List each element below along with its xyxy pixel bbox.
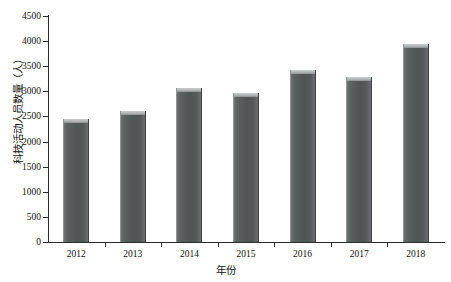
x-axis-tick-label: 2017 [350,249,369,259]
bar-top-highlight [347,77,371,81]
y-axis-tick-label: 500 [27,212,41,222]
y-axis-tick [43,142,48,143]
x-axis-tick-label: 2016 [293,249,312,259]
bar-top-highlight [291,70,315,74]
y-axis-tick-label: 1000 [22,187,41,197]
y-axis-tick [43,41,48,42]
x-axis-tick [387,242,388,247]
x-axis-title: 年份 [0,262,451,277]
bar-top-highlight [177,88,201,92]
x-axis-tick-label: 2018 [406,249,425,259]
y-axis-tick-label: 2500 [22,111,41,121]
x-axis-tick-label: 2014 [180,249,199,259]
y-axis-tick-label: 4500 [22,11,41,21]
bar-top-highlight [121,111,145,115]
bar [176,88,202,242]
y-axis-tick [43,91,48,92]
x-axis-tick-label: 2015 [237,249,256,259]
x-axis-tick-label: 2012 [67,249,86,259]
plot-area: 0500100015002000250030003500400045002012… [48,16,444,242]
bar-top-highlight [64,119,88,123]
y-axis-tick-label: 3500 [22,61,41,71]
y-axis-tick-label: 2000 [22,137,41,147]
x-axis-tick [331,242,332,247]
x-axis-tick-label: 2013 [123,249,142,259]
y-axis-tick [43,217,48,218]
y-axis-tick-label: 0 [36,237,41,247]
y-axis-tick-label: 3000 [22,86,41,96]
bar [346,77,372,242]
bar [63,119,89,242]
bar-top-highlight [234,93,258,97]
y-axis-tick-label: 1500 [22,162,41,172]
y-axis-tick [43,242,48,243]
y-axis-tick [43,16,48,17]
y-axis-tick [43,167,48,168]
x-axis-tick [105,242,106,247]
bar [120,111,146,242]
bar [403,44,429,242]
bar [233,93,259,242]
x-axis-tick [274,242,275,247]
y-axis-tick-label: 4000 [22,36,41,46]
y-axis-tick [43,192,48,193]
x-axis-tick [218,242,219,247]
y-axis-tick [43,116,48,117]
x-axis-tick [161,242,162,247]
bar [290,70,316,242]
bar-top-highlight [404,44,428,48]
bar-chart: 科技活动人员数量（人） 0500100015002000250030003500… [0,0,451,282]
x-axis-line [48,242,445,243]
y-axis-tick [43,66,48,67]
